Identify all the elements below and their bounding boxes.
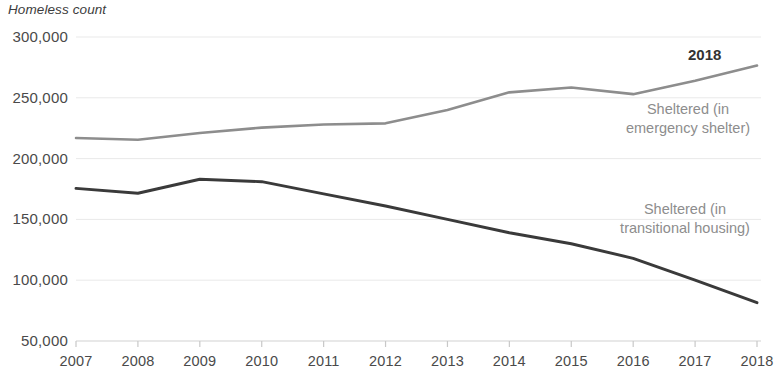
series-label-emergency-shelter: Sheltered (in emergency shelter) — [608, 100, 768, 138]
series-label-transitional-housing-line1: Sheltered (in — [644, 201, 726, 217]
x-axis-ticks — [76, 341, 757, 347]
gridlines — [76, 37, 761, 280]
series-label-emergency-shelter-line2: emergency shelter) — [626, 120, 750, 136]
series-label-emergency-shelter-line1: Sheltered (in — [647, 101, 729, 117]
series-label-transitional-housing-line2: transitional housing) — [620, 220, 750, 236]
annotation-2018: 2018 — [688, 46, 721, 63]
series-line-1 — [76, 179, 757, 302]
series-label-transitional-housing: Sheltered (in transitional housing) — [600, 200, 770, 238]
